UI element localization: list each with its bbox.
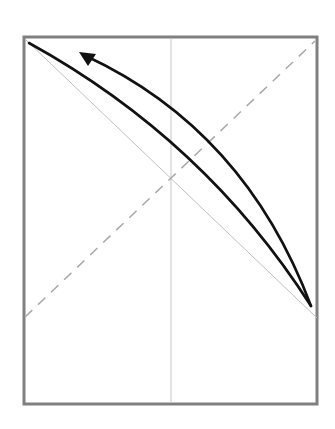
diagram-canvas xyxy=(0,0,335,429)
lower-curve xyxy=(29,43,311,306)
return-curve xyxy=(86,56,311,306)
dashed-anti-diagonal-line xyxy=(25,41,315,317)
